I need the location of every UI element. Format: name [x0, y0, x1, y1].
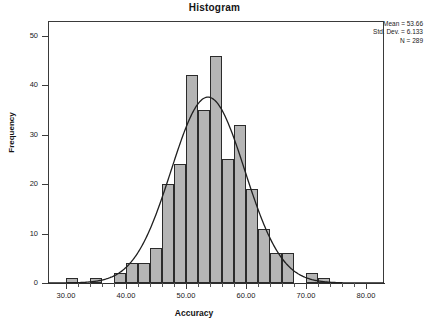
x-axis-tick-minor [222, 283, 223, 287]
x-axis-tick-minor [78, 283, 79, 287]
x-axis-tick-minor [342, 283, 343, 287]
x-axis-tick-major [306, 283, 307, 289]
x-axis-tick-label: 60.00 [226, 291, 266, 300]
x-axis-tick-label: 80.00 [346, 291, 386, 300]
x-axis-tick-major [186, 283, 187, 289]
x-axis-tick-minor [234, 283, 235, 287]
normal-curve-path [48, 97, 384, 283]
y-axis-tick [42, 234, 48, 235]
y-axis-tick [42, 184, 48, 185]
y-axis-tick-label: 20 [0, 179, 38, 188]
x-axis-tick-minor [138, 283, 139, 287]
x-axis-tick-minor [354, 283, 355, 287]
x-axis-tick-major [126, 283, 127, 289]
y-axis-tick-label: 0 [0, 278, 38, 287]
x-axis-tick-minor [294, 283, 295, 287]
normal-distribution-curve [48, 21, 384, 283]
x-axis-tick-label: 50.00 [166, 291, 206, 300]
x-axis-tick-major [366, 283, 367, 289]
y-axis-tick [42, 283, 48, 284]
x-axis-tick-minor [114, 283, 115, 287]
x-axis-tick-minor [150, 283, 151, 287]
histogram-chart: Histogram Mean = 53.66 Std. Dev. = 6.133… [0, 0, 429, 329]
y-axis-tick-label: 30 [0, 130, 38, 139]
y-axis-tick-label: 50 [0, 31, 38, 40]
x-axis-tick-minor [318, 283, 319, 287]
y-axis-tick [42, 135, 48, 136]
y-axis-tick-label: 10 [0, 229, 38, 238]
chart-title: Histogram [0, 2, 429, 13]
x-axis-tick-minor [198, 283, 199, 287]
x-axis-line [48, 283, 385, 284]
x-axis-tick-minor [90, 283, 91, 287]
x-axis-tick-minor [270, 283, 271, 287]
y-axis-tick [42, 36, 48, 37]
x-axis-tick-minor [162, 283, 163, 287]
x-axis-tick-minor [258, 283, 259, 287]
x-axis-tick-label: 30.00 [46, 291, 86, 300]
x-axis-tick-minor [282, 283, 283, 287]
x-axis-label: Accuracy [48, 308, 340, 318]
x-axis-tick-minor [102, 283, 103, 287]
y-axis-tick [42, 85, 48, 86]
x-axis-tick-minor [210, 283, 211, 287]
x-axis-tick-major [246, 283, 247, 289]
x-axis-tick-minor [174, 283, 175, 287]
x-axis-tick-label: 40.00 [106, 291, 146, 300]
x-axis-tick-minor [330, 283, 331, 287]
y-axis-tick-label: 40 [0, 80, 38, 89]
x-axis-tick-major [66, 283, 67, 289]
x-axis-tick-label: 70.00 [286, 291, 326, 300]
